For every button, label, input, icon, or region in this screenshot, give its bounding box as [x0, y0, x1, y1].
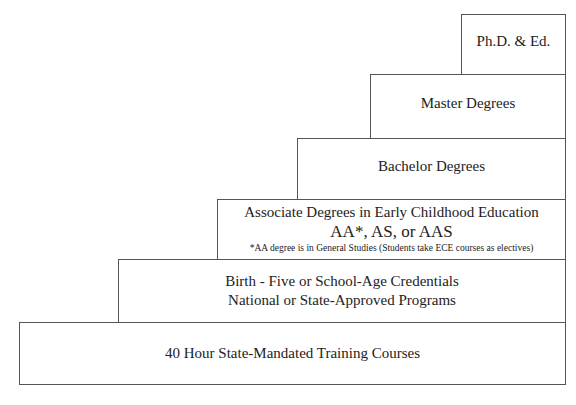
step-label: Associate Degrees in Early Childhood Edu…: [244, 203, 539, 222]
step-sublabel: National or State-Approved Programs: [228, 291, 456, 310]
step-label: 40 Hour State-Mandated Training Courses: [165, 344, 420, 363]
step-footnote: *AA degree is in General Studies (Studen…: [250, 241, 534, 255]
step-master-degrees: Master Degrees: [370, 74, 566, 139]
step-training-courses: 40 Hour State-Mandated Training Courses: [19, 322, 566, 385]
step-label: Master Degrees: [421, 94, 516, 113]
step-associate-degrees: Associate Degrees in Early Childhood Edu…: [217, 199, 566, 260]
step-sublabel: AA*, AS, or AAS: [330, 222, 452, 241]
step-label: Birth - Five or School-Age Credentials: [225, 272, 459, 291]
step-label: Bachelor Degrees: [378, 157, 485, 176]
step-bachelor-degrees: Bachelor Degrees: [297, 138, 566, 200]
step-label: Ph.D. & Ed.: [477, 32, 551, 51]
step-doctorate: Ph.D. & Ed.: [461, 14, 566, 75]
step-credentials: Birth - Five or School-Age Credentials N…: [118, 259, 566, 323]
